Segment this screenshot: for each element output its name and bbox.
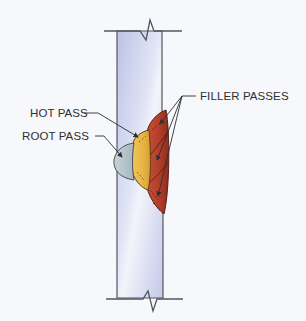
filler-passes-label: FILLER PASSES <box>200 90 289 102</box>
weld-diagram: HOT PASS ROOT PASS FILLER PASSES <box>0 0 306 321</box>
hot-pass-label: HOT PASS <box>30 107 88 119</box>
weld-diagram-graphic <box>0 0 306 321</box>
root-pass-label: ROOT PASS <box>22 130 89 142</box>
